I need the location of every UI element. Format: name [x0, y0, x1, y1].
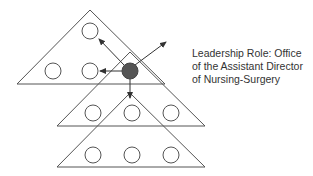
leadership-role-label: Leadership Role: Office of the Assistant…	[192, 47, 313, 86]
top-layer-triangle	[17, 10, 165, 84]
pyramid-layers-graphic	[0, 0, 313, 176]
leadership-diagram: Leadership Role: Office of the Assistant…	[0, 0, 313, 176]
label-line-3: of Nursing-Surgery	[192, 73, 313, 86]
label-line-1: Leadership Role: Office	[192, 47, 313, 60]
label-line-2: of the Assistant Director	[192, 60, 313, 73]
leader-node	[122, 63, 138, 79]
